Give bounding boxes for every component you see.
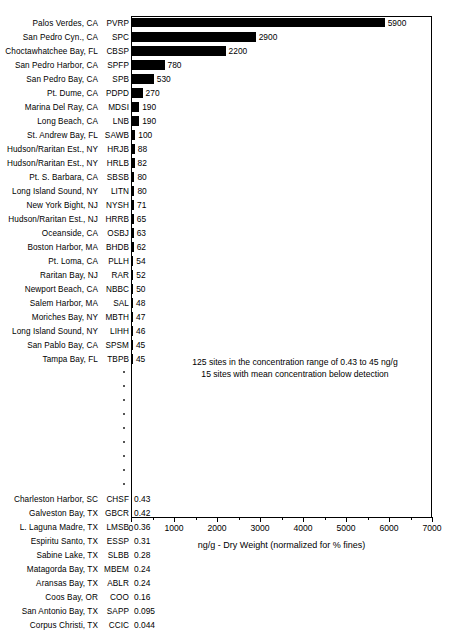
bar-cell: 63 [131, 226, 459, 240]
bar-cell: 80 [131, 184, 459, 198]
bar-value-label: 2200 [229, 45, 248, 58]
x-tick-major [303, 517, 304, 522]
site-name-label: Marina Del Ray, CA [25, 101, 98, 114]
bar [131, 270, 133, 279]
chart-row: Hudson/Raritan Est., NYHRJB88 [0, 142, 459, 156]
chart-annotation: 125 sites in the concentration range of … [150, 357, 440, 380]
site-code-label: HRJB [107, 143, 129, 156]
x-tick-label: 6000 [379, 523, 398, 533]
bar-value-label: 0.24 [134, 563, 150, 576]
x-tick-major [131, 517, 132, 522]
site-code-label: SAPP [107, 605, 129, 618]
site-name-label: Aransas Bay, TX [36, 577, 98, 590]
ellipsis-dot [123, 427, 125, 429]
chart-row: Long Island Sound, NYLITN80 [0, 184, 459, 198]
bar-value-label: 0.24 [134, 577, 150, 590]
site-name-label: Pt. Loma, CA [48, 255, 98, 268]
chart-row: Moriches Bay, NYMBTH47 [0, 310, 459, 324]
chart-row-ellipsis [0, 422, 459, 436]
site-name-label: San Antonio Bay, TX [22, 605, 98, 618]
site-name-label: Galveston Bay, TX [29, 507, 98, 520]
bar-value-label: 190 [142, 101, 156, 114]
bar-value-label: 80 [137, 185, 146, 198]
x-tick-label: 3000 [250, 523, 269, 533]
chart-row: Long Island Sound, NYLIHH46 [0, 324, 459, 338]
bar-value-label: 88 [138, 143, 147, 156]
x-tick-label: 4000 [293, 523, 312, 533]
bar [131, 256, 133, 265]
bar [131, 88, 143, 97]
bar [131, 312, 133, 321]
ellipsis-dot [123, 483, 125, 485]
ellipsis-dot [123, 413, 125, 415]
chart-row: Corpus Christi, TXCCIC0.044 [0, 619, 459, 633]
x-tick-major [432, 517, 433, 522]
site-code-label: LMSB [106, 521, 129, 534]
annotation-line: 15 sites with mean concentration below d… [150, 369, 440, 381]
site-code-label: SAWB [105, 129, 129, 142]
x-tick-major [346, 517, 347, 522]
bar-cell: 0.16 [131, 591, 459, 605]
site-code-label: CBSP [106, 45, 129, 58]
chart-row: Matagorda Bay, TXMBEM0.24 [0, 563, 459, 577]
site-code-label: LNB [113, 115, 129, 128]
x-tick-major [389, 517, 390, 522]
x-tick-label: 7000 [422, 523, 441, 533]
bar-value-label: 2900 [259, 31, 278, 44]
site-name-label: Salem Harbor, MA [30, 297, 98, 310]
site-code-label: HRRB [105, 213, 129, 226]
bar [131, 326, 133, 335]
site-code-label: SPFP [107, 59, 129, 72]
chart-row: Long Beach, CALNB190 [0, 114, 459, 128]
bar-cell: 71 [131, 198, 459, 212]
chart-row: Aransas Bay, TXABLR0.24 [0, 577, 459, 591]
site-name-label: Tampa Bay, FL [42, 353, 98, 366]
bar-cell: 2200 [131, 44, 459, 58]
site-code-label: MBTH [105, 311, 129, 324]
site-name-label: Raritan Bay, NJ [40, 269, 98, 282]
bar-cell: 62 [131, 240, 459, 254]
bar [131, 116, 139, 125]
bar-cell: 780 [131, 58, 459, 72]
bar-cell: 45 [131, 338, 459, 352]
bar-value-label: 63 [137, 227, 146, 240]
bar-cell: 100 [131, 128, 459, 142]
site-name-label: L. Laguna Madre, TX [20, 521, 98, 534]
site-name-label: Charleston Harbor, SC [14, 493, 98, 506]
x-axis: 01000200030004000500060007000 [131, 517, 432, 557]
bar [131, 60, 165, 69]
x-tick-minor [196, 517, 197, 520]
chart-row-ellipsis [0, 408, 459, 422]
site-code-label: GBCR [105, 507, 129, 520]
bar-value-label: 71 [137, 199, 146, 212]
bar [131, 228, 134, 237]
chart-row-ellipsis [0, 465, 459, 479]
chart-row: Pt. S. Barbara, CASBSB80 [0, 170, 459, 184]
bar-value-label: 780 [168, 59, 182, 72]
site-code-label: SLBB [108, 549, 129, 562]
bar-value-label: 50 [136, 283, 145, 296]
chart-row-ellipsis [0, 394, 459, 408]
site-code-label: SPC [112, 31, 129, 44]
chart-row: Oceanside, CAOSBJ63 [0, 226, 459, 240]
bar-value-label: 270 [146, 87, 160, 100]
site-name-label: Long Beach, CA [37, 115, 98, 128]
bar-value-label: 54 [136, 255, 145, 268]
x-tick-minor [282, 517, 283, 520]
chart-row-ellipsis [0, 380, 459, 394]
x-tick-major [217, 517, 218, 522]
site-code-label: SPB [112, 73, 129, 86]
site-name-label: St. Andrew Bay, FL [27, 129, 98, 142]
ellipsis-dot [123, 455, 125, 457]
bar [131, 242, 134, 251]
bar-cell: 190 [131, 114, 459, 128]
site-name-label: Moriches Bay, NY [32, 311, 98, 324]
bar-value-label: 0.43 [134, 493, 150, 506]
bar [131, 354, 133, 363]
bar-cell: 0.044 [131, 619, 459, 633]
site-name-label: Hudson/Raritan Est., NY [7, 157, 98, 170]
chart-row-ellipsis [0, 436, 459, 450]
bar-value-label: 65 [137, 213, 146, 226]
bar-cell: 47 [131, 310, 459, 324]
